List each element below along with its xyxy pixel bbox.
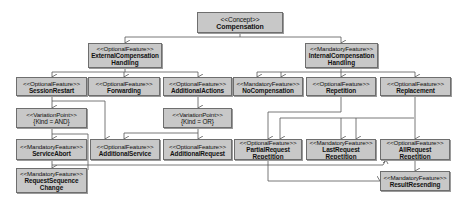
node-stereotype: <<OptionalFeature>> (169, 80, 226, 87)
node-last-request-repetition[interactable]: <<MandatoryFeature>> LastRequest Repetit… (306, 139, 376, 160)
node-name: LastRequest (322, 146, 359, 153)
node-name-line2: Repetition (325, 153, 356, 160)
node-stereotype: <<Concept>> (221, 16, 260, 23)
node-stereotype: <<MandatoryFeature>> (310, 45, 373, 52)
node-name: ServiceAbort (32, 150, 71, 157)
node-name: Compensation (216, 23, 263, 30)
node-additional-request[interactable]: <<OptionalFeature>> AdditionalRequest (163, 139, 232, 160)
node-stereotype: <<MandatoryFeature>> (20, 143, 83, 150)
node-name: PartialRequest (246, 146, 289, 153)
node-name: ExternalCompensation (91, 52, 159, 59)
node-name: Repetition (326, 87, 356, 94)
node-name: AllRequest (399, 146, 431, 153)
node-name: AdditionalService (99, 150, 151, 157)
node-variation-point-or[interactable]: <<VariationPoint>> {Kind = OR} (163, 108, 232, 128)
node-name: Forwarding (107, 87, 141, 94)
node-name: Replacement (396, 87, 435, 94)
node-stereotype: <<VariationPoint>> (26, 111, 77, 118)
node-stereotype: <<OptionalFeature>> (97, 143, 154, 150)
node-name: AdditionalRequest (170, 150, 225, 157)
node-name: SessionRestart (29, 87, 74, 94)
node-stereotype: <<OptionalFeature>> (313, 80, 370, 87)
node-variation-point-and[interactable]: <<VariationPoint>> {Kind = AND} (16, 108, 87, 128)
node-all-request-repetition[interactable]: <<OptionalFeature>> AllRequest Repetitio… (380, 139, 450, 160)
node-service-abort[interactable]: <<MandatoryFeature>> ServiceAbort (16, 139, 87, 160)
node-name: RequestSequence (25, 177, 79, 184)
node-request-sequence-change[interactable]: <<MandatoryFeature>> RequestSequence Cha… (16, 168, 87, 193)
node-kind: {Kind = AND} (33, 118, 69, 125)
node-forwarding[interactable]: <<OptionalFeature>> Forwarding (88, 77, 160, 96)
node-stereotype: <<MandatoryFeature>> (20, 170, 83, 177)
node-kind: {Kind = OR} (181, 118, 214, 125)
node-stereotype: <<OptionalFeature>> (23, 80, 80, 87)
node-compensation[interactable]: <<Concept>> Compensation (197, 12, 283, 33)
node-external-compensation-handling[interactable]: <<OptionalFeature>> ExternalCompensation… (88, 43, 162, 68)
node-internal-compensation-handling[interactable]: <<MandatoryFeature>> InternalCompensatio… (305, 43, 378, 68)
node-name-line2: Handling (328, 59, 355, 66)
node-stereotype: <<OptionalFeature>> (96, 80, 153, 87)
node-replacement[interactable]: <<OptionalFeature>> Replacement (380, 77, 451, 96)
node-stereotype: <<VariationPoint>> (172, 111, 223, 118)
node-result-resending[interactable]: <<MandatoryFeature>> ResultResending (380, 171, 450, 191)
node-name: InternalCompensation (309, 52, 374, 59)
node-stereotype: <<OptionalFeature>> (240, 139, 297, 146)
node-name: NoCompensation (242, 87, 294, 94)
node-partial-request-repetition[interactable]: <<OptionalFeature>> PartialRequest Repet… (234, 139, 302, 160)
node-name-line2: Repetition (252, 153, 283, 160)
node-name-line2: Change (40, 184, 63, 191)
node-stereotype: <<OptionalFeature>> (387, 80, 444, 87)
feature-diagram: <<Concept>> Compensation <<OptionalFeatu… (0, 0, 464, 206)
node-name: ResultResending (390, 181, 441, 188)
node-name-line2: Repetition (399, 153, 430, 160)
node-repetition[interactable]: <<OptionalFeature>> Repetition (306, 77, 376, 96)
node-stereotype: <<MandatoryFeature>> (309, 139, 372, 146)
node-no-compensation[interactable]: <<MandatoryFeature>> NoCompensation (233, 77, 303, 96)
node-additional-service[interactable]: <<OptionalFeature>> AdditionalService (90, 139, 160, 160)
node-additional-actions[interactable]: <<OptionalFeature>> AdditionalActions (163, 77, 232, 96)
node-session-restart[interactable]: <<OptionalFeature>> SessionRestart (16, 77, 87, 96)
node-name: AdditionalActions (171, 87, 224, 94)
node-stereotype: <<OptionalFeature>> (387, 139, 444, 146)
node-stereotype: <<OptionalFeature>> (97, 45, 154, 52)
node-name-line2: Handling (111, 59, 138, 66)
node-stereotype: <<MandatoryFeature>> (383, 174, 446, 181)
node-stereotype: <<OptionalFeature>> (169, 143, 226, 150)
node-stereotype: <<MandatoryFeature>> (236, 80, 299, 87)
